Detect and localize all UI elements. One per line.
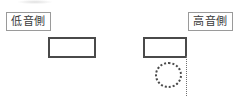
rectangle-low-frequency-side xyxy=(48,37,96,58)
label-text-low-frequency-side: 低音側 xyxy=(11,16,46,27)
label-text-high-frequency-side: 高音側 xyxy=(193,16,228,27)
label-box-low-frequency-side: 低音側 xyxy=(6,12,51,31)
diagram-canvas: 低音側 高音側 xyxy=(0,0,244,96)
dotted-vertical-guide-line xyxy=(186,56,187,96)
rectangle-high-frequency-side xyxy=(143,37,187,58)
label-box-high-frequency-side: 高音側 xyxy=(188,12,233,31)
scan-artifact-smudge xyxy=(18,0,52,4)
dotted-circle-marker xyxy=(155,62,182,88)
